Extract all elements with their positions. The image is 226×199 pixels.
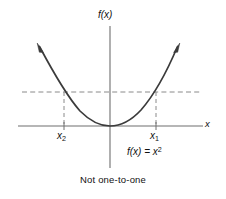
equation-exponent: 2: [158, 145, 162, 154]
parabola-not-one-to-one-figure: f(x) x x2 x1 f(x) = x2 Not one-to-one: [0, 0, 226, 199]
parabola-curve: [40, 47, 178, 127]
curve-left-arrowhead: [37, 43, 43, 53]
graph-canvas: [0, 0, 226, 199]
x2-point-label: x2: [57, 131, 66, 142]
curve-right-arrowhead: [174, 43, 180, 53]
x2-subscript: 2: [62, 134, 66, 143]
y-axis-label: f(x): [98, 10, 112, 20]
figure-caption: Not one-to-one: [0, 174, 226, 185]
function-equation-label: f(x) = x2: [127, 146, 162, 157]
x-axis-label: x: [205, 119, 210, 129]
x1-subscript: 1: [155, 134, 159, 143]
x1-point-label: x1: [150, 131, 159, 142]
equation-lhs: f(x) = x: [127, 146, 158, 157]
